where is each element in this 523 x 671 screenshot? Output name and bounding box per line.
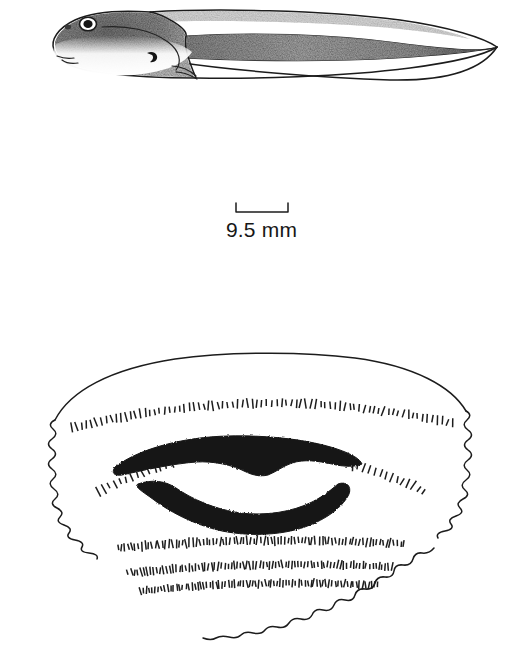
labial-tooth — [322, 580, 323, 587]
labial-tooth — [242, 400, 243, 408]
labial-tooth — [179, 584, 180, 591]
labial-tooth — [315, 399, 317, 409]
labial-tooth — [229, 580, 230, 588]
labial-tooth — [352, 537, 354, 545]
labial-tooth — [134, 543, 135, 551]
labial-tooth — [410, 481, 416, 490]
labial-tooth — [390, 473, 394, 482]
labial-tooth — [370, 537, 372, 546]
labial-tooth — [157, 540, 160, 549]
labial-tooth — [110, 415, 113, 422]
labial-tooth — [145, 408, 146, 417]
labial-tooth — [323, 562, 324, 568]
labial-tooth — [150, 567, 151, 575]
labial-tooth — [243, 561, 245, 569]
labial-tooth — [213, 538, 214, 545]
labial-tooth — [139, 587, 141, 595]
labial-tooth — [130, 474, 133, 482]
labial-tooth — [255, 561, 256, 569]
labial-tooth — [331, 580, 332, 586]
labial-tooth — [278, 561, 279, 567]
labial-tooth — [119, 478, 121, 484]
labial-tooth — [171, 539, 173, 548]
upper-jaw-sheath — [113, 436, 362, 476]
labial-tooth — [268, 580, 269, 586]
labial-tooth — [403, 540, 404, 547]
labial-tooth — [344, 579, 346, 587]
labial-tooth — [288, 561, 289, 568]
labial-tooth — [227, 402, 228, 408]
labial-tooth — [208, 401, 209, 411]
labial-tooth — [71, 422, 73, 432]
scale-bar-graphic — [222, 195, 302, 217]
labial-tooth — [355, 539, 356, 546]
labial-tooth — [236, 536, 238, 544]
labial-tooth — [335, 581, 336, 587]
labial-tooth — [212, 401, 214, 411]
labial-tooth — [309, 537, 310, 545]
labial-tooth — [146, 586, 147, 594]
labial-tooth — [225, 581, 226, 587]
labial-tooth — [192, 565, 193, 571]
labial-tooth — [153, 567, 154, 575]
labial-tooth — [121, 544, 122, 551]
labial-tooth — [126, 570, 128, 575]
labial-tooth — [288, 538, 289, 544]
labial-tooth — [96, 487, 101, 497]
labial-tooth — [327, 561, 328, 568]
oral-disc-illustration — [0, 345, 523, 665]
labial-tooth — [221, 562, 222, 568]
labial-tooth — [311, 561, 312, 569]
labial-tooth — [234, 579, 235, 588]
labial-tooth — [156, 541, 157, 548]
lateral-view-panel — [0, 0, 523, 100]
labial-tooth — [170, 566, 172, 574]
labial-tooth — [131, 568, 133, 575]
labial-tooth — [397, 411, 399, 417]
labial-tooth — [359, 404, 360, 412]
labial-tooth — [124, 543, 125, 551]
labial-tooth — [351, 581, 352, 588]
tooth-row-a1 — [71, 398, 453, 432]
lower-jaw-sheath — [137, 481, 350, 534]
labial-tooth — [380, 469, 383, 476]
labial-tooth — [175, 406, 176, 412]
labial-tooth — [442, 416, 443, 425]
labial-tooth — [356, 563, 357, 569]
labial-tooth — [128, 544, 130, 550]
labial-tooth — [368, 465, 371, 473]
labial-tooth — [192, 582, 193, 591]
labial-tooth — [167, 584, 168, 592]
scale-bar-label: 9.5 mm — [0, 218, 523, 242]
labial-tooth — [359, 563, 360, 569]
labial-tooth — [347, 581, 348, 587]
labial-tooth — [406, 479, 410, 488]
labial-tooth — [295, 561, 296, 567]
labial-tooth — [131, 542, 133, 550]
labial-tooth — [198, 582, 199, 591]
labial-tooth — [162, 565, 164, 574]
labial-tooth — [385, 472, 387, 480]
labial-tooth — [292, 561, 293, 570]
labial-tooth — [203, 404, 205, 410]
labial-tooth — [261, 400, 262, 407]
marginal-papillae-right — [437, 411, 471, 538]
labial-tooth — [432, 415, 433, 423]
labial-tooth — [325, 537, 326, 545]
oral-disc-panel — [0, 345, 523, 665]
labial-tooth — [282, 398, 283, 407]
labial-tooth — [216, 538, 217, 544]
labial-tooth — [172, 564, 173, 573]
labial-tooth — [137, 570, 138, 576]
labial-tooth — [363, 538, 364, 545]
labial-tooth — [296, 400, 297, 409]
labial-tooth — [350, 561, 351, 568]
labial-tooth — [379, 562, 380, 570]
labial-tooth — [166, 566, 168, 573]
labial-tooth — [217, 562, 218, 571]
labial-tooth — [274, 581, 275, 586]
labial-tooth — [182, 565, 183, 572]
labial-tooth — [272, 400, 273, 407]
labial-tooth — [330, 562, 331, 568]
labial-tooth — [94, 418, 98, 427]
